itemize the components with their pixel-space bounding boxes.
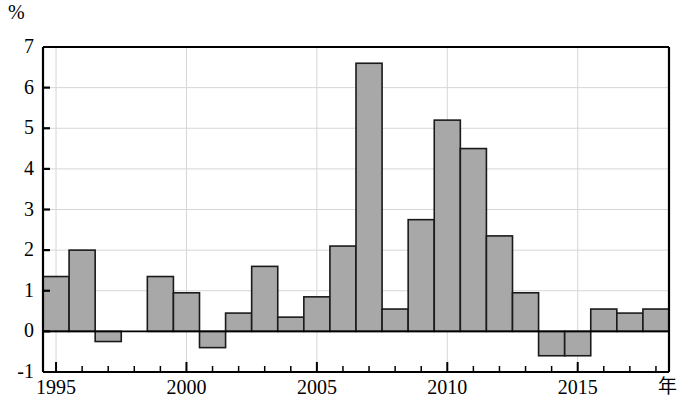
y-tick-label: 6 (4, 77, 34, 97)
bar (173, 293, 199, 332)
bar (356, 63, 382, 331)
y-tick-label: 4 (4, 158, 34, 178)
y-tick-label: 7 (4, 36, 34, 56)
bar (95, 331, 121, 341)
x-tick-label: 2015 (543, 377, 613, 397)
bar (460, 149, 486, 332)
bar (434, 120, 460, 331)
y-tick-label: 5 (4, 117, 34, 137)
x-tick-label: 2000 (151, 377, 221, 397)
bar (304, 297, 330, 332)
plot-area (0, 0, 683, 409)
x-tick-label: 1995 (21, 377, 91, 397)
bar (252, 266, 278, 331)
y-tick-label: 1 (4, 280, 34, 300)
bar (43, 277, 69, 332)
bar (226, 313, 252, 331)
x-tick-label: 2010 (412, 377, 482, 397)
y-tick-label: 2 (4, 239, 34, 259)
bar (69, 250, 95, 331)
bar (147, 277, 173, 332)
bar (330, 246, 356, 331)
bar (200, 331, 226, 347)
bar (539, 331, 565, 355)
bar (565, 331, 591, 355)
bar (617, 313, 643, 331)
bar (278, 317, 304, 331)
bar (408, 220, 434, 332)
y-tick-label: 0 (4, 320, 34, 340)
bar-chart: % 年 -101234567 19952000200520102015 (0, 0, 683, 409)
bar (382, 309, 408, 331)
bar (486, 236, 512, 331)
bar (591, 309, 617, 331)
bar (513, 293, 539, 332)
x-tick-label: 2005 (282, 377, 352, 397)
y-tick-label: 3 (4, 199, 34, 219)
bar (643, 309, 669, 331)
